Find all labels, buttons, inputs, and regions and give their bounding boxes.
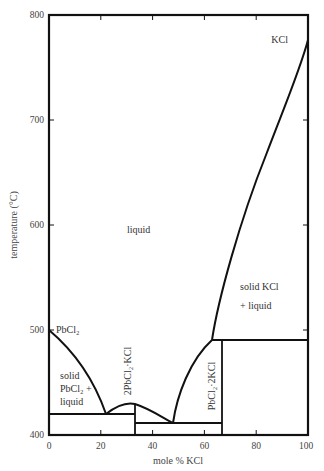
- label-kcl: KCl: [271, 34, 288, 45]
- x-tick-labels: 0 20 40 60 80 100: [47, 441, 314, 451]
- x-tick-60: 60: [200, 441, 210, 451]
- label-liquid-small: liquid: [60, 396, 83, 407]
- y-axis-label: temperature (°C): [8, 191, 20, 259]
- y-tick-800: 800: [30, 10, 45, 20]
- label-compound-pbcl2-2kcl: PbCl₂·2KCl: [206, 362, 217, 411]
- label-solid: solid: [60, 370, 79, 381]
- y-tick-500: 500: [30, 325, 45, 335]
- y-tick-400: 400: [30, 430, 45, 440]
- y-tick-700: 700: [30, 115, 45, 125]
- liquidus-kcl: [212, 40, 308, 340]
- x-tick-80: 80: [251, 441, 261, 451]
- label-liquid: liquid: [127, 224, 150, 235]
- label-pbcl2: PbCl₂: [56, 324, 80, 335]
- invariant-lines: [49, 340, 308, 423]
- phase-diagram: 0 20 40 60 80 100 400 500 600 700 800 mo…: [0, 0, 324, 471]
- x-tick-0: 0: [47, 441, 52, 451]
- y-tick-labels: 400 500 600 700 800: [30, 10, 45, 440]
- x-axis-label: mole % KCl: [153, 455, 203, 466]
- y-tick-600: 600: [30, 220, 45, 230]
- label-plus-liquid: + liquid: [240, 300, 271, 311]
- y-ticks: [49, 120, 308, 330]
- label-pbcl2-plus: PbCl₂ +: [60, 383, 92, 394]
- x-tick-100: 100: [299, 441, 314, 451]
- plot-frame: [49, 15, 308, 435]
- label-solid-kcl: solid KCl: [240, 281, 279, 292]
- x-tick-40: 40: [148, 441, 158, 451]
- phase-boundaries: [49, 40, 308, 423]
- label-compound-2pbcl2-kcl: 2PbCl₂·KCl: [122, 347, 133, 396]
- x-tick-20: 20: [96, 441, 106, 451]
